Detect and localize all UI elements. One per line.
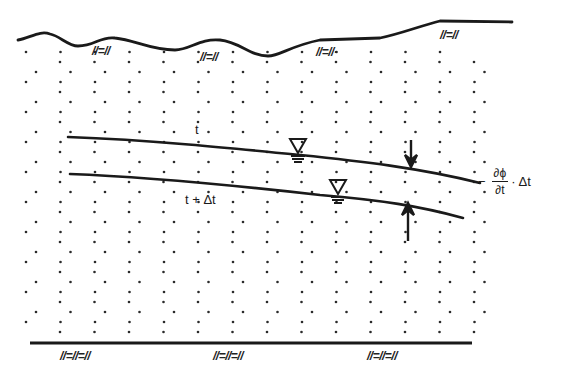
arrow-up-icon [402, 203, 414, 241]
formula-suffix: · Δt [511, 174, 531, 189]
water-table-marker-icon [290, 139, 306, 162]
surface-hatch-mark: //=// [92, 44, 110, 58]
surface-hatch-mark: //=//· [316, 45, 337, 59]
drawdown-formula: − ∂ϕ ∂t · Δt [478, 166, 531, 197]
surface-hatch-mark: //=// [200, 50, 218, 64]
formula-minus: − [478, 174, 486, 189]
formula-fraction: ∂ϕ ∂t [492, 166, 509, 197]
water-table-t-dt-label: t + Δt [185, 192, 216, 207]
formula-denominator: ∂t [495, 182, 504, 197]
base-hatch-mark: //=//=// [213, 349, 243, 363]
surface-hatch-mark: //=// [440, 28, 458, 42]
aquifer-dot-pattern [25, 51, 486, 334]
base-hatch-mark: //=//=// [367, 349, 397, 363]
formula-numerator: ∂ϕ [492, 166, 509, 182]
base-hatch-mark: //=//=// [60, 349, 90, 363]
water-table-t-label: t [195, 122, 199, 137]
water-table-marker-icon [330, 180, 346, 203]
